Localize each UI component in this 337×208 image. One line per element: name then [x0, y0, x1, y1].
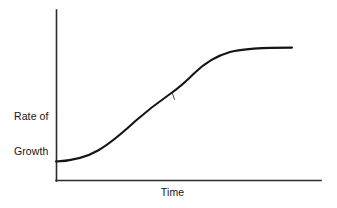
growth-curve [56, 48, 292, 162]
x-axis-label: Time [0, 187, 337, 199]
y-axis-label: Rate of Growth [14, 88, 49, 180]
y-axis-label-line-1: Rate of [14, 111, 49, 123]
chart-canvas [0, 0, 337, 208]
curve-inflection-mark [173, 94, 175, 100]
chart-figure: Rate of Growth Time [0, 0, 337, 208]
y-axis-label-line-2: Growth [14, 146, 49, 158]
